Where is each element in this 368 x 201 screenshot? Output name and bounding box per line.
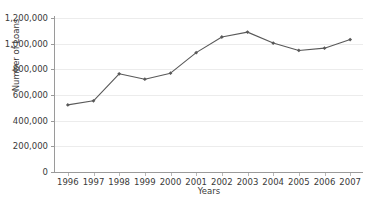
y-axis-tick <box>51 121 55 122</box>
data-point-marker <box>143 77 147 81</box>
series-layer <box>0 0 368 201</box>
data-point-marker <box>66 103 70 107</box>
y-axis-tick <box>51 95 55 96</box>
x-axis-tick <box>171 173 172 176</box>
x-axis-tick <box>145 173 146 176</box>
x-axis-tick <box>299 173 300 176</box>
line-chart: Number of Loans Years 0200,000400,000600… <box>0 0 368 201</box>
x-axis-tick <box>196 173 197 176</box>
y-axis-tick <box>51 172 55 173</box>
x-axis-tick <box>248 173 249 176</box>
x-axis-tick <box>119 173 120 176</box>
x-axis-tick-label: 2007 <box>330 177 368 187</box>
y-axis-tick-label: 200,000 <box>0 141 48 151</box>
y-axis-tick <box>51 69 55 70</box>
y-axis-tick-label: 1,000,000 <box>0 39 48 49</box>
data-point-marker <box>323 46 327 50</box>
y-axis-tick <box>51 44 55 45</box>
x-axis-tick <box>68 173 69 176</box>
y-axis-tick-label: 400,000 <box>0 116 48 126</box>
y-axis-tick <box>51 18 55 19</box>
x-axis-tick <box>273 173 274 176</box>
y-axis-tick-label: 0 <box>0 167 48 177</box>
data-point-marker <box>246 30 250 34</box>
data-point-marker <box>271 41 275 45</box>
x-axis-tick <box>94 173 95 176</box>
x-axis-tick <box>325 173 326 176</box>
x-axis-tick <box>350 173 351 176</box>
y-axis-tick-label: 1,200,000 <box>0 13 48 23</box>
y-axis-tick <box>51 146 55 147</box>
series-line <box>68 32 350 105</box>
data-point-marker <box>297 49 301 53</box>
x-axis-title: Years <box>55 186 363 196</box>
y-axis-tick-label: 800,000 <box>0 64 48 74</box>
data-point-marker <box>348 38 352 42</box>
x-axis-tick <box>222 173 223 176</box>
series-markers <box>66 30 352 107</box>
y-axis-tick-label: 600,000 <box>0 90 48 100</box>
